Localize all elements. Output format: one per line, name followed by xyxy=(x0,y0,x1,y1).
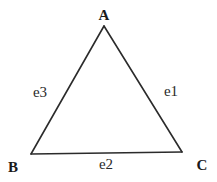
vertex-label-a: A xyxy=(99,7,110,23)
vertex-label-c: C xyxy=(197,157,208,173)
edge-label-e3: e3 xyxy=(33,84,47,100)
edge-label-e2: e2 xyxy=(99,156,113,172)
edge-label-e1: e1 xyxy=(164,83,178,99)
vertex-label-b: B xyxy=(8,159,18,175)
triangle-diagram: A B C e1 e2 e3 xyxy=(0,0,217,182)
edge-e2 xyxy=(31,152,182,154)
